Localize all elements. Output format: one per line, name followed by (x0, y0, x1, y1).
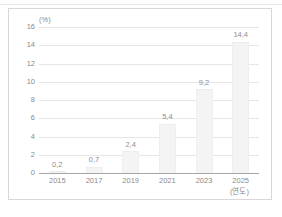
top-edge-strip (0, 0, 282, 5)
bar-slot: 9,2 (186, 27, 223, 173)
bar-slot: 5,4 (149, 27, 186, 173)
y-axis-tick-label: 0 (31, 169, 35, 177)
bar-slot: 14,4 (222, 27, 259, 173)
chart-figure: (%) 1614121086420 0,20,72,45,49,214,4 20… (8, 8, 272, 200)
y-axis-tick-label: 6 (31, 115, 35, 123)
bar-slot: 0,7 (76, 27, 113, 173)
bar-value-label: 5,4 (162, 113, 172, 121)
y-axis-tick-label: 14 (27, 42, 35, 50)
y-axis-tick-label: 16 (27, 23, 35, 31)
bar[interactable] (232, 42, 249, 173)
bar[interactable] (159, 124, 176, 173)
y-axis-tick-label: 4 (31, 133, 35, 141)
y-axis-tick-label: 8 (31, 96, 35, 104)
y-axis-tick-label: 10 (27, 78, 35, 86)
bar-value-label: 9,2 (199, 79, 209, 87)
x-axis-tick-label: 2017 (76, 177, 113, 185)
bar-value-label: 0,7 (89, 156, 99, 164)
bar[interactable] (49, 171, 66, 173)
x-axis-unit-label: (연도) (39, 188, 259, 196)
bar[interactable] (122, 151, 139, 173)
x-axis-tick-labels: 201520172019202120232025 (39, 177, 259, 185)
bar-value-label: 2,4 (125, 141, 135, 149)
y-axis-unit-label: (%) (39, 16, 51, 24)
bar-value-label: 0,2 (52, 161, 62, 169)
bar[interactable] (196, 89, 213, 173)
plot-area: 1614121086420 0,20,72,45,49,214,4 (39, 27, 259, 173)
bar[interactable] (86, 167, 103, 173)
axis-baseline: 0 (39, 173, 259, 174)
x-axis-tick-label: 2021 (149, 177, 186, 185)
y-axis-tick-label: 2 (31, 151, 35, 159)
x-axis-tick-label: 2015 (39, 177, 76, 185)
y-axis-tick-label: 12 (27, 60, 35, 68)
x-axis-tick-label: 2023 (186, 177, 223, 185)
bar-slot: 0,2 (39, 27, 76, 173)
x-axis-tick-label: 2019 (112, 177, 149, 185)
bar-slot: 2,4 (112, 27, 149, 173)
bar-value-label: 14,4 (233, 31, 248, 39)
bars-group: 0,20,72,45,49,214,4 (39, 27, 259, 173)
x-axis-tick-label: 2025 (222, 177, 259, 185)
